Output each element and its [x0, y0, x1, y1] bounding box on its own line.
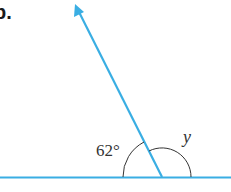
angle-label-62: 62°: [96, 141, 120, 160]
arrowhead-icon: [74, 4, 84, 17]
ray: [78, 10, 162, 177]
part-label: b.: [0, 1, 12, 23]
angle-label-y: y: [181, 127, 191, 147]
angle-diagram: b. 62° y: [0, 0, 231, 192]
angle-arc-62: [123, 142, 144, 177]
